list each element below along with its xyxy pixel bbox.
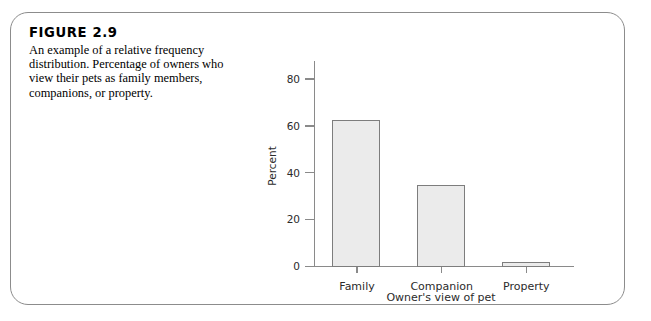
figure-title: FIGURE 2.9 — [29, 25, 269, 40]
caption-block: FIGURE 2.9 An example of a relative freq… — [29, 25, 269, 100]
bar — [332, 120, 380, 267]
y-axis-line — [314, 61, 315, 267]
y-axis-title: Percent — [266, 146, 278, 186]
bar — [417, 185, 465, 267]
y-tick: 40 — [305, 172, 314, 173]
y-tick-label: 20 — [287, 213, 300, 225]
y-tick-label: 40 — [287, 167, 300, 179]
x-tick: Family — [356, 267, 357, 273]
x-tick: Property — [526, 267, 527, 273]
x-tick: Companion — [441, 267, 442, 273]
y-tick: 0 — [305, 266, 314, 267]
y-tick-label: 80 — [287, 73, 300, 85]
plot-area: 020406080 FamilyCompanionProperty — [314, 61, 568, 267]
y-tick-label: 0 — [293, 260, 300, 272]
x-axis-title: Owner's view of pet — [314, 291, 568, 304]
y-tick: 20 — [305, 219, 314, 220]
y-tick: 80 — [305, 78, 314, 79]
bar-chart: Percent 020406080 FamilyCompanionPropert… — [266, 33, 611, 298]
figure-caption: An example of a relative frequency distr… — [29, 43, 241, 100]
figure-card: FIGURE 2.9 An example of a relative freq… — [10, 12, 625, 305]
y-tick-label: 60 — [287, 120, 300, 132]
y-tick: 60 — [305, 125, 314, 126]
